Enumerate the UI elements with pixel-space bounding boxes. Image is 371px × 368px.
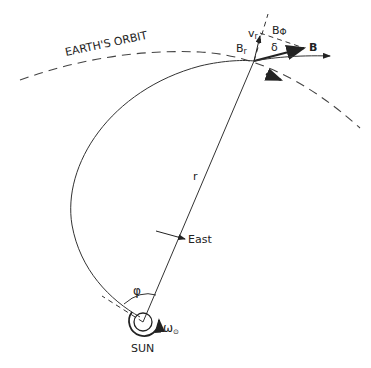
vr-label: vr <box>248 27 259 41</box>
br-label: Br <box>236 42 248 56</box>
sun-label: SUN <box>131 342 154 355</box>
delta-label: δ <box>271 41 278 54</box>
phi-label: φ <box>133 284 141 298</box>
omega-label: ω⊙ <box>163 321 179 336</box>
bphi-label: BΦ <box>272 24 287 37</box>
b-label: B <box>309 41 317 54</box>
b-vector <box>254 48 304 61</box>
orbital-motion-arrow <box>266 74 281 80</box>
radial-line <box>143 61 254 322</box>
east-label: East <box>188 233 212 246</box>
earths-orbit <box>20 52 360 128</box>
parker-spiral-diagram: EARTH'S ORBIT vr BΦ δ B Br r East φ ω⊙ S… <box>0 0 371 368</box>
phi-reference-line <box>102 296 143 322</box>
orbit-label: EARTH'S ORBIT <box>64 29 149 59</box>
r-label: r <box>193 170 198 183</box>
